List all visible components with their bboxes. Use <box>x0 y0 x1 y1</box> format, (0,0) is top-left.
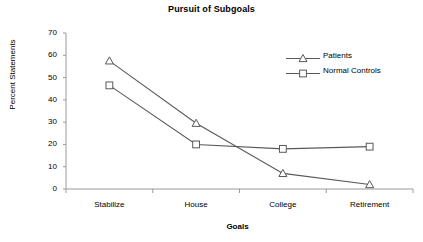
y-tick-label: 0 <box>35 185 57 193</box>
legend-swatch-patients <box>286 50 320 61</box>
series-normal-controls-point-0-marker-square <box>106 82 113 89</box>
x-tick-label: College <box>240 201 327 209</box>
series-line-normal-controls <box>109 85 369 149</box>
legend-label-normal-controls: Normal Controls <box>323 66 381 75</box>
series-patients-point-2-marker-triangle <box>279 169 287 176</box>
x-tick-label: House <box>153 201 240 209</box>
legend-marker-icon <box>286 53 320 64</box>
x-tick-label: Stabilize <box>66 201 153 209</box>
y-tick-label: 60 <box>35 51 57 59</box>
series-patients-point-0-marker-triangle <box>105 57 113 64</box>
legend-normal-controls-marker-square <box>300 70 307 77</box>
legend-item-patients: Patients <box>286 49 381 62</box>
legend-label-patients: Patients <box>323 51 352 60</box>
x-tick-label: Retirement <box>326 201 413 209</box>
chart-figure: Pursuit of Subgoals Percent Statements G… <box>0 0 423 242</box>
y-tick-label: 20 <box>35 140 57 148</box>
legend-swatch-normal-controls <box>286 65 320 76</box>
series-normal-controls-point-3-marker-square <box>366 143 373 150</box>
series-line-patients <box>109 61 369 185</box>
y-tick-label: 40 <box>35 96 57 104</box>
series-normal-controls-point-1-marker-square <box>193 141 200 148</box>
chart-legend: PatientsNormal Controls <box>286 49 381 79</box>
y-tick-label: 70 <box>35 29 57 37</box>
series-normal-controls-point-2-marker-square <box>279 145 286 152</box>
y-tick-label: 30 <box>35 118 57 126</box>
legend-marker-icon <box>286 68 320 79</box>
series-patients-point-1-marker-triangle <box>192 119 200 126</box>
y-tick-label: 50 <box>35 74 57 82</box>
legend-item-normal-controls: Normal Controls <box>286 64 381 77</box>
y-tick-label: 10 <box>35 163 57 171</box>
